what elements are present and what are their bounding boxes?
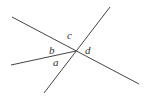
- line-1: [12, 17, 139, 84]
- angle-label-d: d: [85, 44, 91, 56]
- angle-label-a: a: [53, 56, 59, 68]
- angle-label-c: c: [67, 29, 72, 41]
- angle-diagram: c b d a: [0, 0, 144, 100]
- ray-3: [11, 51, 76, 65]
- angle-label-b: b: [49, 44, 55, 56]
